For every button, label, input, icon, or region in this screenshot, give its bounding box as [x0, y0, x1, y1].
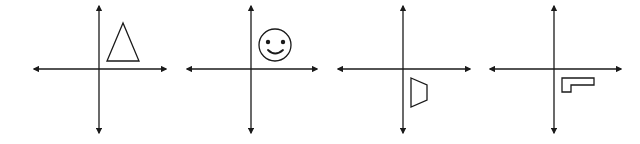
- trapezoid-shape: [411, 78, 427, 107]
- smiley-left-eye: [266, 40, 270, 44]
- panel-2-coordinate-plane: [187, 6, 317, 133]
- smiley-mouth: [268, 50, 283, 54]
- triangle-shape: [107, 23, 139, 61]
- smiley-right-eye: [281, 40, 285, 44]
- smiley-face-outline: [259, 29, 291, 61]
- l-shape: [562, 78, 594, 92]
- panel-4-coordinate-plane: [490, 6, 621, 133]
- transformation-diagram: [0, 0, 640, 144]
- panel-3-coordinate-plane: [338, 6, 470, 133]
- smiley-face-icon: [259, 29, 291, 61]
- panel-1-coordinate-plane: [34, 6, 166, 133]
